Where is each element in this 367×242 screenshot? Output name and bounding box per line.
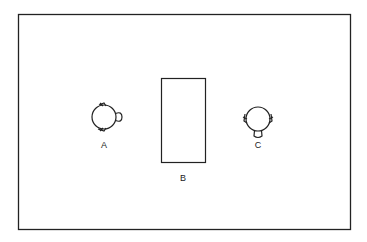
- head-c-icon: [243, 107, 273, 138]
- diagram-canvas: [0, 0, 367, 242]
- object-b-rectangle: [162, 79, 206, 163]
- label-c: C: [255, 140, 262, 150]
- head-a-icon: [92, 103, 122, 131]
- outer-frame: [19, 15, 351, 230]
- label-b: B: [180, 173, 186, 183]
- label-a: A: [101, 140, 107, 150]
